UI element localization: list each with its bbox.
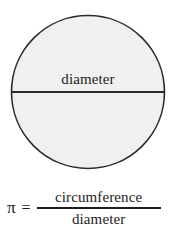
fraction-numerator: circumference	[53, 188, 144, 207]
fraction: circumference diameter	[37, 188, 161, 228]
circle-diagram-svg	[0, 0, 176, 182]
fraction-denominator: diameter	[70, 209, 127, 228]
pi-definition-figure: diameter π = circumference diameter	[0, 0, 176, 234]
pi-equation: π = circumference diameter	[0, 182, 176, 234]
diameter-label: diameter	[0, 71, 176, 88]
pi-symbol: π	[7, 198, 17, 218]
equation-left-side: π =	[0, 198, 36, 218]
circle-diagram: diameter	[0, 0, 176, 182]
equals-symbol: =	[17, 198, 36, 218]
